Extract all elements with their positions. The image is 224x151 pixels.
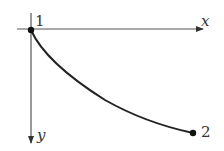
point-2-marker [190, 130, 196, 136]
diagram-canvas [0, 0, 224, 151]
path-curve [31, 30, 193, 133]
point-1-marker [28, 27, 34, 33]
x-axis-label: x [201, 14, 209, 29]
y-axis-label: y [37, 128, 45, 143]
point-2-label: 2 [201, 125, 211, 140]
point-1-label: 1 [35, 14, 45, 29]
